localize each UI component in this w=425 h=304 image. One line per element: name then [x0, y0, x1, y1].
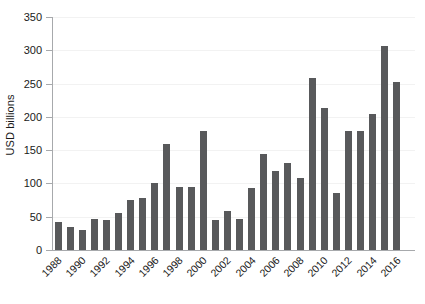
- x-tick-label: 2004: [232, 254, 257, 279]
- x-tick-label: 2006: [257, 254, 282, 279]
- bar: [333, 193, 340, 250]
- bar: [55, 222, 62, 250]
- bar: [139, 198, 146, 250]
- bar: [200, 131, 207, 250]
- bar-series: [52, 17, 415, 250]
- y-tick-label: 300: [0, 45, 42, 56]
- x-tick-label: 2012: [329, 254, 354, 279]
- y-tick-label: 50: [0, 211, 42, 222]
- bar: [345, 131, 352, 250]
- x-tick-label: 2014: [353, 254, 378, 279]
- x-tick-label: 2002: [208, 254, 233, 279]
- bar: [284, 163, 291, 250]
- bar: [224, 211, 231, 250]
- bar: [297, 178, 304, 250]
- bar: [151, 183, 158, 250]
- bar: [393, 82, 400, 250]
- bar-chart: USD billions 050100150200250300350 19881…: [0, 0, 425, 304]
- bar: [260, 154, 267, 250]
- bar: [115, 213, 122, 250]
- bar: [212, 220, 219, 250]
- bar: [321, 108, 328, 250]
- bar: [79, 230, 86, 250]
- x-tick-label: 1992: [87, 254, 112, 279]
- bar: [127, 200, 134, 250]
- bar: [67, 227, 74, 250]
- bar: [236, 219, 243, 250]
- bar: [103, 220, 110, 250]
- x-axis-ticks: 1988199019921994199619982000200220042006…: [52, 251, 415, 304]
- bar: [381, 46, 388, 250]
- x-tick-label: 2010: [305, 254, 330, 279]
- y-tick-label: 200: [0, 111, 42, 122]
- x-tick-label: 2000: [184, 254, 209, 279]
- x-tick-label: 1998: [160, 254, 185, 279]
- y-tick-label: 0: [0, 245, 42, 256]
- bar: [188, 187, 195, 250]
- y-tick-label: 100: [0, 178, 42, 189]
- bar: [163, 144, 170, 250]
- bar: [272, 171, 279, 250]
- x-tick-label: 1990: [63, 254, 88, 279]
- bar: [369, 114, 376, 250]
- x-tick-label: 2016: [378, 254, 403, 279]
- bar: [176, 187, 183, 250]
- x-tick-label: 1996: [136, 254, 161, 279]
- y-tick-label: 350: [0, 12, 42, 23]
- bar: [248, 188, 255, 250]
- bar: [309, 78, 316, 250]
- x-tick-label: 2008: [281, 254, 306, 279]
- x-tick-label: 1994: [111, 254, 136, 279]
- y-tick-label: 250: [0, 78, 42, 89]
- y-tick-label: 150: [0, 145, 42, 156]
- bar: [91, 219, 98, 250]
- bar: [357, 131, 364, 250]
